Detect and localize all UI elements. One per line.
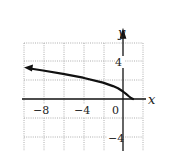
x-tick-neg4: −4	[74, 104, 90, 117]
grid	[24, 43, 143, 151]
y-tick-neg4: −4	[108, 132, 124, 145]
x-axis-label: x	[148, 92, 156, 107]
function-curve	[30, 69, 133, 100]
y-axis-label: y	[117, 25, 126, 40]
function-graph: y x 4 −8 −4 0 −4	[0, 0, 170, 151]
left-arrow-icon	[24, 65, 33, 72]
x-tick-0: 0	[112, 104, 119, 117]
x-tick-neg8: −8	[33, 104, 49, 117]
y-tick-4: 4	[115, 56, 122, 69]
curve-series	[24, 65, 133, 100]
